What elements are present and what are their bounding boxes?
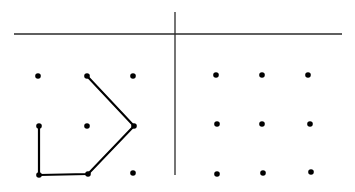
right-dot-r2c1 bbox=[260, 170, 266, 176]
right-dot-r0c0 bbox=[213, 72, 219, 78]
right-dot-grid bbox=[213, 72, 314, 177]
right-dot-r1c0 bbox=[214, 121, 220, 127]
left-dot-r0c2 bbox=[130, 73, 136, 79]
left-dot-grid bbox=[35, 73, 137, 178]
right-dot-r2c0 bbox=[214, 171, 220, 177]
left-dot-r0c0 bbox=[35, 73, 41, 79]
dot-grid-diagram bbox=[0, 0, 355, 192]
right-dot-r1c1 bbox=[259, 121, 265, 127]
diagram-canvas bbox=[0, 0, 355, 192]
right-dot-r1c2 bbox=[307, 121, 313, 127]
right-dot-r2c2 bbox=[308, 169, 314, 175]
left-dot-r1c1 bbox=[84, 123, 90, 129]
left-dot-r2c2 bbox=[130, 170, 136, 176]
right-dot-r0c1 bbox=[259, 72, 265, 78]
right-dot-r0c2 bbox=[305, 72, 311, 78]
